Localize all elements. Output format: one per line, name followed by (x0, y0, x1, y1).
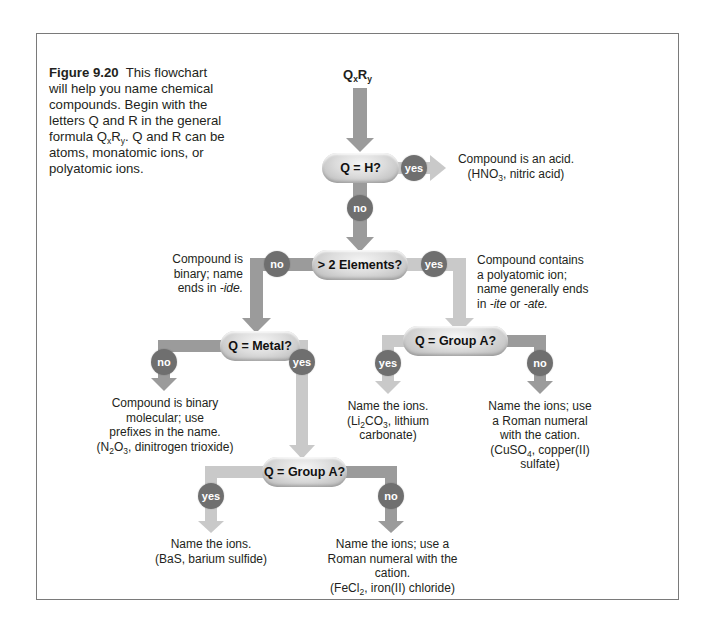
outcome-metal-not-group-a: Name the ions; use a Roman numeral with … (310, 537, 475, 595)
no-badge-qh: no (347, 195, 373, 221)
yes-badge-elements: yes (421, 251, 447, 277)
outcome-binary-molecular: Compound is binary molecular; use prefix… (95, 396, 235, 454)
decision-q-equals-group-a-metal: Q = Group A? (262, 457, 347, 487)
arrow-start-to-qh (346, 88, 374, 152)
decision-q-equals-h: Q = H? (322, 153, 399, 183)
yes-badge-poly-group: yes (375, 350, 401, 376)
yes-badge-qh: yes (401, 155, 427, 181)
yes-badge-metal: yes (289, 349, 315, 375)
yes-badge-metal-group: yes (198, 483, 224, 509)
no-badge-metal: no (151, 349, 177, 375)
no-badge-poly-group: no (527, 350, 553, 376)
outcome-polyatomic-group-a: Name the ions. (Li2CO3, lithium carbonat… (340, 399, 436, 443)
decision-more-than-two-elements: > 2 Elements? (312, 250, 408, 280)
outcome-polyatomic-not-group-a: Name the ions; use a Roman numeral with … (470, 399, 610, 472)
no-badge-elements: no (264, 251, 290, 277)
outcome-polyatomic: Compound contains a polyatomic ion; name… (477, 253, 607, 311)
decision-q-equals-group-a-polyatomic: Q = Group A? (403, 326, 508, 356)
outcome-binary: Compound is binary; name ends in -ide. (150, 252, 243, 296)
decision-q-equals-metal: Q = Metal? (220, 331, 300, 361)
start-formula: QxRy (343, 67, 372, 82)
outcome-metal-group-a: Name the ions. (BaS, barium sulfide) (150, 537, 272, 566)
no-badge-metal-group: no (378, 483, 404, 509)
outcome-acid: Compound is an acid. (HNO3, nitric acid) (446, 152, 586, 181)
